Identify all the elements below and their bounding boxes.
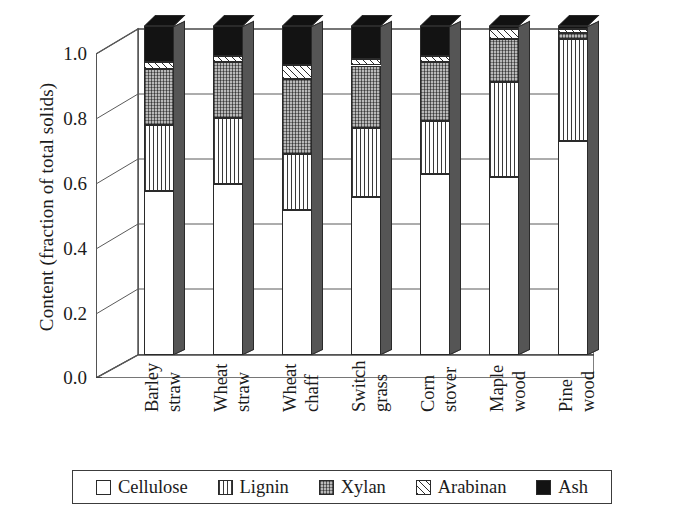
bar-segment-ash[interactable] xyxy=(282,26,312,65)
x-tick-label-line2: stover xyxy=(440,367,461,412)
plot-area: 1.0 0.8 0.6 0.4 0.2 0.0 BarleystrawWheat… xyxy=(96,26,594,378)
y-tick-label-4: 0.4 xyxy=(63,238,87,260)
x-tick-label-line2: wood xyxy=(509,371,530,412)
y-tick-label-1: 1.0 xyxy=(63,43,87,65)
bar-side-face xyxy=(243,21,254,355)
bar-segment-ash[interactable] xyxy=(489,26,519,29)
legend-swatch-ash-icon xyxy=(536,480,551,495)
legend-item-xylan[interactable]: Xylan xyxy=(319,477,386,498)
bar-segment-xylan[interactable] xyxy=(489,39,519,82)
x-tick-label-line1: Corn xyxy=(418,375,439,412)
bar-segment-ash[interactable] xyxy=(144,26,174,62)
bar-segment-arabinan[interactable] xyxy=(144,62,174,69)
legend-item-arabinan[interactable]: Arabinan xyxy=(416,477,507,498)
x-tick-label-line2: straw xyxy=(164,372,185,412)
bar-segment-cellulose[interactable] xyxy=(420,174,450,355)
legend-swatch-xylan-icon xyxy=(319,480,334,495)
y-tick-label-3: 0.6 xyxy=(63,173,87,195)
x-tick-label-line1: Wheat xyxy=(280,364,301,412)
legend-label: Lignin xyxy=(240,477,289,498)
bar-side-face xyxy=(450,21,461,355)
bar-segment-arabinan[interactable] xyxy=(420,56,450,63)
legend-item-cellulose[interactable]: Cellulose xyxy=(96,477,188,498)
bar-side-face xyxy=(174,21,185,355)
x-tick-label-line1: Barley xyxy=(142,363,163,412)
bar-segment-lignin[interactable] xyxy=(144,125,174,191)
legend-item-lignin[interactable]: Lignin xyxy=(218,477,289,498)
bar-segment-xylan[interactable] xyxy=(144,69,174,125)
figure: Content (fraction of total solids) xyxy=(0,0,684,532)
x-tick-label-line1: Pine xyxy=(556,379,577,412)
bar-segment-cellulose[interactable] xyxy=(213,184,243,355)
bar-segment-lignin[interactable] xyxy=(282,154,312,210)
legend-item-ash[interactable]: Ash xyxy=(536,477,588,498)
bar-segment-xylan[interactable] xyxy=(420,62,450,121)
bar-segment-ash[interactable] xyxy=(213,26,243,56)
bar-segment-ash[interactable] xyxy=(351,26,381,59)
legend-label: Cellulose xyxy=(118,477,188,498)
bar-segment-arabinan[interactable] xyxy=(489,29,519,39)
bar-segment-ash[interactable] xyxy=(558,26,588,29)
bar-side-face xyxy=(588,21,599,355)
bar-segment-lignin[interactable] xyxy=(213,118,243,184)
bar-segment-lignin[interactable] xyxy=(558,39,588,141)
bar-segment-xylan[interactable] xyxy=(213,62,243,118)
legend-label: Ash xyxy=(558,477,588,498)
bar-segment-xylan[interactable] xyxy=(282,79,312,155)
y-tick-label-6: 0.0 xyxy=(63,367,87,389)
legend-swatch-cellulose-icon xyxy=(96,480,111,495)
x-tick-label-line2: grass xyxy=(371,374,392,412)
bar-segment-arabinan[interactable] xyxy=(351,59,381,66)
bar-segment-lignin[interactable] xyxy=(489,82,519,177)
bar-segment-xylan[interactable] xyxy=(558,33,588,40)
bar-side-face xyxy=(519,21,530,355)
y-axis-title: Content (fraction of total solids) xyxy=(36,42,58,372)
bar-segment-cellulose[interactable] xyxy=(558,141,588,355)
bar-side-face xyxy=(381,21,392,355)
x-tick-label-line2: wood xyxy=(578,371,599,412)
y-tick-label-5: 0.2 xyxy=(63,303,87,325)
bar-segment-ash[interactable] xyxy=(420,26,450,56)
x-tick-label-line1: Switch xyxy=(349,361,370,412)
bar-segment-lignin[interactable] xyxy=(351,128,381,197)
bar-segment-cellulose[interactable] xyxy=(489,177,519,355)
legend: CelluloseLigninXylanArabinanAsh xyxy=(72,470,612,504)
x-tick-label-line1: Wheat xyxy=(211,364,232,412)
bar-segment-lignin[interactable] xyxy=(420,121,450,174)
legend-label: Arabinan xyxy=(438,477,507,498)
bar-segment-arabinan[interactable] xyxy=(282,65,312,78)
legend-swatch-lignin-icon xyxy=(218,480,233,495)
bar-segment-xylan[interactable] xyxy=(351,66,381,129)
x-tick-label-line2: chaff xyxy=(302,374,323,412)
bar-segment-arabinan[interactable] xyxy=(558,29,588,32)
x-tick-label-line2: straw xyxy=(233,372,254,412)
legend-label: Xylan xyxy=(341,477,386,498)
bar-segment-cellulose[interactable] xyxy=(282,210,312,355)
y-tick-label-2: 0.8 xyxy=(63,108,87,130)
bar-segment-cellulose[interactable] xyxy=(351,197,381,355)
bar-segment-arabinan[interactable] xyxy=(213,56,243,63)
legend-swatch-arabinan-icon xyxy=(416,480,431,495)
x-tick-label-line1: Maple xyxy=(487,365,508,412)
bar-segment-cellulose[interactable] xyxy=(144,191,174,356)
bar-side-face xyxy=(312,21,323,355)
